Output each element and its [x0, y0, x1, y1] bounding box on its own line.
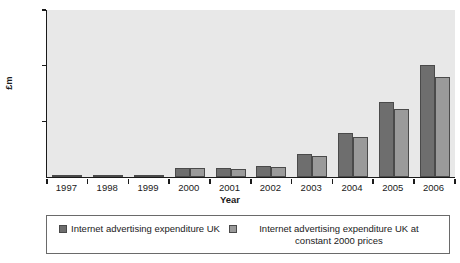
bar-group: [129, 10, 170, 177]
bar: [134, 175, 149, 177]
legend-item-series-0[interactable]: Internet advertising expenditure UK: [59, 223, 220, 235]
bar: [190, 168, 205, 177]
y-axis-tick-mark: [42, 121, 47, 123]
bar-group: [251, 10, 292, 177]
bar: [379, 102, 394, 177]
x-axis-tick-mark: [413, 179, 415, 184]
x-axis-tick-label: 2004: [330, 182, 374, 193]
bar: [420, 65, 435, 177]
legend-label-series-0: Internet advertising expenditure UK: [71, 223, 220, 235]
bar: [297, 154, 312, 177]
bar: [338, 133, 353, 177]
bar-group: [47, 10, 88, 177]
bar: [108, 175, 123, 177]
x-axis-tick-label: 1997: [44, 182, 88, 193]
x-axis-tick-label: 1999: [126, 182, 170, 193]
chart-legend: Internet advertising expenditure UK Inte…: [46, 215, 450, 254]
x-axis-tick-mark: [168, 179, 170, 184]
bar-group: [169, 10, 210, 177]
y-axis-tick-mark: [42, 65, 47, 67]
y-axis-tick-mark: [42, 9, 47, 11]
x-axis-tick-label: 2003: [289, 182, 333, 193]
bar: [52, 175, 67, 177]
bar: [394, 109, 409, 177]
bar-group: [414, 10, 455, 177]
legend-item-series-1[interactable]: Internet advertising expenditure UK at c…: [229, 223, 437, 246]
x-axis-tick-mark: [372, 179, 374, 184]
bar-group: [333, 10, 374, 177]
bar: [435, 77, 450, 177]
bar-group: [373, 10, 414, 177]
bar: [256, 166, 271, 177]
y-axis-title: £m: [4, 66, 14, 100]
bar-group: [210, 10, 251, 177]
legend-swatch-icon-series-0: [59, 225, 67, 233]
x-axis-tick-mark: [209, 179, 211, 184]
x-axis-tick-label: 2002: [248, 182, 292, 193]
bar: [175, 168, 190, 177]
x-axis-tick-label: 2000: [167, 182, 211, 193]
x-axis-tick-mark: [250, 179, 252, 184]
x-axis-tick-mark: [46, 179, 48, 184]
x-axis-tick-label: 1998: [85, 182, 129, 193]
legend-label-series-1: Internet advertising expenditure UK at c…: [241, 223, 437, 246]
plot-area: [46, 10, 455, 178]
bar: [67, 175, 82, 177]
chart-container: £m 0100020003000 19971998199920002001200…: [0, 0, 460, 263]
bar-group: [88, 10, 129, 177]
bar: [353, 137, 368, 177]
x-axis-tick-mark: [454, 179, 456, 184]
bar: [216, 168, 231, 177]
x-axis-title: Year: [0, 194, 460, 205]
x-axis-tick-label: 2006: [412, 182, 456, 193]
x-axis-tick-mark: [291, 179, 293, 184]
legend-swatch-icon-series-1: [229, 225, 237, 233]
bar: [271, 167, 286, 177]
bar: [312, 156, 327, 177]
x-axis-tick-mark: [87, 179, 89, 184]
bar-groups: [47, 10, 455, 177]
bar: [231, 169, 246, 177]
bar: [149, 175, 164, 177]
x-axis-tick-mark: [128, 179, 130, 184]
x-axis-tick-mark: [332, 179, 334, 184]
bar: [93, 175, 108, 177]
x-axis-tick-label: 2001: [208, 182, 252, 193]
bar-group: [292, 10, 333, 177]
x-axis-tick-label: 2005: [371, 182, 415, 193]
